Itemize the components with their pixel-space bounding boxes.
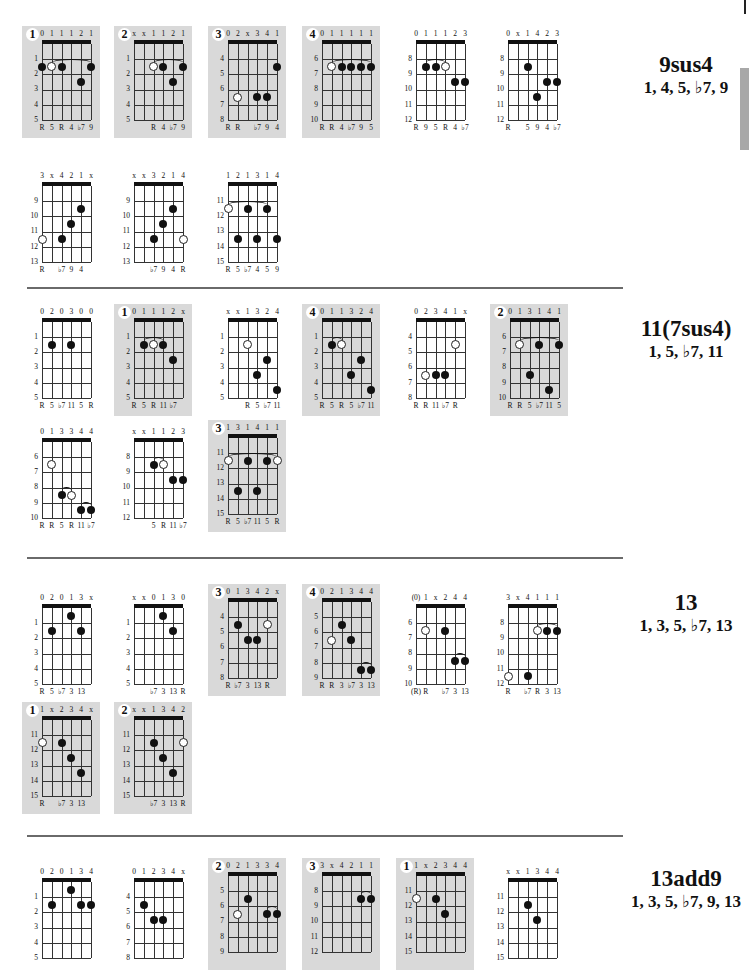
finger-dot (58, 63, 66, 71)
string-line (332, 322, 333, 398)
string-line (42, 608, 43, 684)
fretboard-grid (508, 608, 557, 684)
fret-line (42, 638, 91, 639)
string-line (342, 602, 343, 678)
fret-line (42, 368, 91, 369)
finger-dot (159, 220, 167, 228)
finger-dot (347, 63, 355, 71)
finger-number: 0 (57, 307, 67, 317)
string-line (134, 882, 135, 958)
fret-line (510, 398, 559, 399)
interval-label: 11 (270, 400, 284, 412)
finger-number: 0 (37, 427, 47, 437)
fret-number: 5 (126, 907, 130, 916)
finger-number: 3 (178, 427, 188, 437)
fret-number: 11 (405, 100, 412, 109)
fret-line (42, 669, 91, 670)
finger-dot (367, 666, 375, 674)
finger-number: 3 (346, 307, 356, 317)
fret-line (228, 59, 277, 60)
fretboard-grid (134, 882, 183, 958)
fretboard-grid (228, 602, 277, 678)
string-line (134, 720, 135, 796)
string-line (154, 44, 155, 120)
fret-number: 2 (34, 633, 38, 642)
finger-number: 3 (76, 593, 86, 603)
interval-row: R95R4♭7 (414, 122, 470, 134)
fret-line (322, 632, 371, 633)
finger-number: 2 (158, 171, 168, 181)
fret-labels: 1112131415 (210, 438, 226, 514)
finger-dot (338, 621, 346, 629)
string-line (144, 322, 145, 398)
string-line (465, 608, 466, 684)
finger-dot (451, 78, 459, 86)
finger-dot (234, 235, 242, 243)
finger-number: 1 (178, 29, 188, 39)
string-line (426, 44, 427, 120)
fret-line (42, 90, 91, 91)
finger-dot (77, 769, 85, 777)
finger-number: 2 (47, 867, 57, 877)
root-note-dot (67, 491, 76, 500)
fret-line (42, 232, 91, 233)
finger-number: 0 (223, 29, 233, 39)
string-line (520, 322, 521, 398)
finger-number: 4 (440, 307, 450, 317)
string-line (257, 44, 258, 120)
fret-line (228, 514, 277, 515)
finger-dot (67, 612, 75, 620)
finger-number: 2 (356, 307, 366, 317)
fret-labels: 1112131415 (210, 186, 226, 262)
finger-number: 1 (243, 171, 253, 181)
string-line (228, 186, 229, 262)
string-line (91, 608, 92, 684)
finger-dot (461, 78, 469, 86)
fret-line (508, 912, 557, 913)
interval-row: R5R11♭7 (132, 400, 188, 412)
fingering-row: xx3214 (132, 171, 188, 181)
fret-number: 6 (408, 362, 412, 371)
finger-number: 4 (76, 427, 86, 437)
chord-diagram: 2xx112112345R4♭79 (114, 26, 192, 138)
fret-line (322, 648, 371, 649)
finger-number: 4 (450, 593, 460, 603)
fret-number: 6 (126, 922, 130, 931)
string-line (183, 322, 184, 398)
fret-line (228, 262, 277, 263)
fret-line (228, 383, 277, 384)
fret-line (228, 632, 277, 633)
finger-number: x (86, 705, 96, 715)
finger-dot (159, 916, 167, 924)
finger-dot (169, 769, 177, 777)
finger-number: 1 (149, 427, 159, 437)
fret-line (42, 457, 91, 458)
string-line (62, 44, 63, 120)
finger-dot (179, 63, 187, 71)
string-line (52, 882, 53, 958)
fret-labels: 1112131415 (24, 720, 40, 796)
fret-number: 5 (314, 612, 318, 621)
fret-number: 9 (34, 196, 38, 205)
string-line (154, 186, 155, 262)
interval-row: R5♭7115R (226, 516, 282, 528)
string-line (445, 44, 446, 120)
interval-label: ♭7 (458, 122, 472, 134)
finger-number: 1 (327, 307, 337, 317)
fret-number: 12 (497, 907, 505, 916)
fret-number: 11 (123, 498, 130, 507)
string-line (134, 186, 135, 262)
string-line (134, 442, 135, 518)
finger-number: 3 (158, 867, 168, 877)
fret-line (416, 368, 465, 369)
finger-number: x (513, 867, 523, 877)
string-line (81, 186, 82, 262)
finger-number: 3 (252, 171, 262, 181)
finger-dot (432, 63, 440, 71)
fret-line (416, 90, 465, 91)
string-line (537, 44, 538, 120)
fret-line (508, 654, 557, 655)
fretboard-grid (322, 876, 371, 952)
fret-line (322, 617, 371, 618)
finger-dot (338, 63, 346, 71)
